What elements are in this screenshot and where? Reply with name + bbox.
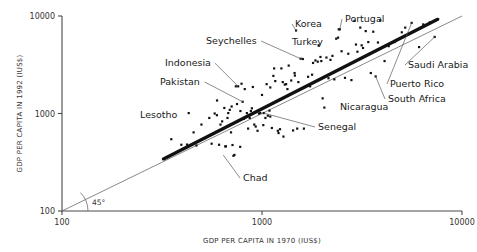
data-point: [290, 79, 292, 81]
data-point: [275, 100, 277, 102]
data-point: [418, 46, 420, 48]
data-point: [261, 94, 263, 96]
data-point: [293, 72, 295, 74]
data-point: [277, 130, 279, 132]
data-point: [216, 114, 218, 116]
data-point: [333, 78, 335, 80]
data-point: [322, 97, 324, 99]
data-point: [255, 125, 257, 127]
data-point: [362, 47, 364, 49]
data-point: [233, 154, 235, 156]
data-point: [429, 21, 431, 23]
data-point: [200, 123, 202, 125]
data-point: [235, 85, 237, 87]
data-point: [319, 56, 321, 58]
annotation-label-south-africa: South Africa: [388, 93, 446, 104]
data-point: [359, 27, 361, 29]
x-tick-label-100: 100: [54, 218, 69, 227]
data-point: [294, 74, 296, 76]
data-point: [317, 61, 319, 63]
data-point: [162, 158, 164, 160]
annotation-label-lesotho: Lesotho: [140, 109, 177, 120]
data-point: [231, 144, 233, 146]
data-point: [264, 117, 266, 119]
annotation-label-portugal: Portugal: [345, 13, 384, 24]
data-point: [361, 44, 363, 46]
chart-figure: 45° 100100010000100100010000 KoreaPortug…: [0, 0, 477, 252]
data-point: [365, 30, 367, 32]
data-point: [247, 128, 249, 130]
leader-puerto-rico: [387, 23, 412, 84]
angle-label: 45°: [92, 198, 106, 207]
data-point: [296, 128, 298, 130]
data-point: [223, 107, 225, 109]
data-point: [303, 128, 305, 130]
annotation-label-seychelles: Seychelles: [206, 35, 257, 46]
data-point: [236, 103, 238, 105]
data-point: [240, 83, 242, 85]
data-point: [340, 50, 342, 52]
data-point: [311, 74, 313, 76]
data-point: [297, 81, 299, 83]
data-point: [251, 107, 253, 109]
data-point: [195, 144, 197, 146]
data-point: [239, 110, 241, 112]
data-point: [312, 62, 314, 64]
leader-chad: [223, 155, 240, 178]
data-point: [246, 112, 248, 114]
data-point: [314, 59, 316, 61]
data-point: [269, 115, 271, 117]
data-point: [239, 146, 241, 148]
data-point: [180, 144, 182, 146]
data-point: [211, 143, 213, 145]
data-point: [355, 43, 357, 45]
leader-portugal: [340, 19, 342, 29]
leader-indonesia: [215, 63, 238, 86]
data-point: [302, 58, 304, 60]
y-tick-label-100: 100: [40, 207, 55, 216]
data-point: [356, 51, 358, 53]
data-point: [244, 88, 246, 90]
data-point: [347, 53, 349, 55]
data-point: [218, 144, 220, 146]
data-point: [193, 131, 195, 133]
scatter-plot: 45° 100100010000100100010000 KoreaPortug…: [0, 0, 477, 252]
data-point: [268, 110, 270, 112]
data-point: [274, 80, 276, 82]
data-point: [372, 31, 374, 33]
data-point: [320, 60, 322, 62]
data-point: [219, 123, 221, 125]
data-point: [288, 64, 290, 66]
data-point: [437, 18, 439, 20]
data-point: [249, 117, 251, 119]
data-point: [327, 77, 329, 79]
data-point: [329, 59, 331, 61]
y-tick-label-10000: 10000: [30, 12, 55, 21]
data-point: [216, 99, 218, 101]
data-point: [422, 23, 424, 25]
data-point: [252, 86, 254, 88]
data-point: [285, 83, 287, 85]
y-tick-label-1000: 1000: [35, 110, 55, 119]
data-point: [259, 112, 261, 114]
data-point: [226, 117, 228, 119]
data-point: [393, 41, 395, 43]
data-point: [208, 117, 210, 119]
data-point: [231, 105, 233, 107]
data-point: [229, 109, 231, 111]
data-point: [280, 67, 282, 69]
data-point: [253, 123, 255, 125]
data-point: [225, 145, 227, 147]
data-point: [230, 131, 232, 133]
leader-senegal: [264, 113, 315, 127]
data-point: [267, 115, 269, 117]
data-point: [286, 88, 288, 90]
data-point: [277, 132, 279, 134]
x-tick-label-1000: 1000: [252, 218, 272, 227]
data-point: [170, 138, 172, 140]
data-point: [243, 118, 245, 120]
x-tick-label-10000: 10000: [449, 218, 474, 227]
data-point: [282, 81, 284, 83]
data-point: [221, 120, 223, 122]
data-point: [325, 56, 327, 58]
